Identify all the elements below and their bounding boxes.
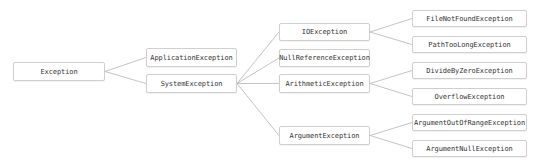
- edge-exception-to-application-exception: [105, 58, 146, 72]
- edge-system-exception-to-argument-exception: [237, 84, 279, 136]
- node-argument-out-of-range-exception: ArgumentOutOfRangeException: [412, 114, 527, 131]
- node-argument-null-exception: ArgumentNullException: [412, 140, 527, 157]
- node-null-reference-exception: NullReferenceException: [279, 49, 370, 67]
- node-exception: Exception: [13, 62, 105, 81]
- edge-io-exception-to-file-not-found-exception: [370, 19, 412, 33]
- node-overflow-exception: OverflowException: [412, 88, 527, 105]
- edge-argument-exception-to-argument-null-exception: [370, 136, 412, 149]
- edge-system-exception-to-null-reference-exception: [237, 58, 279, 84]
- edge-exception-to-system-exception: [105, 72, 146, 84]
- edge-arithmetic-exception-to-divide-by-zero-exception: [370, 71, 412, 84]
- node-file-not-found-exception: FileNotFoundException: [412, 10, 527, 27]
- node-path-too-long-exception: PathTooLongException: [412, 36, 527, 53]
- node-divide-by-zero-exception: DivideByZeroException: [412, 62, 527, 79]
- node-system-exception: SystemException: [146, 74, 237, 93]
- node-application-exception: ApplicationException: [146, 48, 237, 67]
- edge-arithmetic-exception-to-overflow-exception: [370, 84, 412, 97]
- edge-argument-exception-to-argument-out-of-range-exception: [370, 123, 412, 136]
- node-io-exception: IOException: [279, 23, 370, 41]
- node-arithmetic-exception: ArithmeticException: [279, 74, 370, 93]
- edge-system-exception-to-io-exception: [237, 32, 279, 84]
- node-argument-exception: ArgumentException: [279, 126, 370, 145]
- edge-io-exception-to-path-too-long-exception: [370, 32, 412, 45]
- exception-hierarchy-diagram: ExceptionApplicationExceptionSystemExcep…: [0, 0, 542, 164]
